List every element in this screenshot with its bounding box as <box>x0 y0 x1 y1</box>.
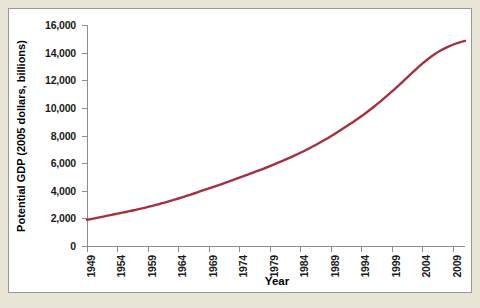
potential-gdp-line <box>87 25 467 247</box>
x-tick <box>331 247 332 252</box>
x-tick <box>178 247 179 252</box>
x-tick-label: 1954 <box>115 255 127 278</box>
y-tick-label: 8,000 <box>51 130 76 142</box>
y-tick-label: 4,000 <box>51 185 76 197</box>
chart-figure: Potential GDP (2005 dollars, billions) Y… <box>8 8 472 293</box>
x-tick-label: 1969 <box>207 255 219 278</box>
x-tick <box>209 247 210 252</box>
y-tick-label: 6,000 <box>51 157 76 169</box>
x-tick-label: 1949 <box>85 255 97 278</box>
x-tick-label: 1989 <box>329 255 341 278</box>
x-tick <box>392 247 393 252</box>
x-tick <box>361 247 362 252</box>
x-tick <box>422 247 423 252</box>
x-tick-label: 1999 <box>390 255 402 278</box>
x-tick-label: 1964 <box>176 255 188 278</box>
x-tick-label: 1984 <box>298 255 310 278</box>
x-tick <box>300 247 301 252</box>
y-tick-label: 14,000 <box>45 47 76 59</box>
y-tick-label: 16,000 <box>45 19 76 31</box>
x-tick-label: 1974 <box>237 255 249 278</box>
plot-area: 02,0004,0006,0008,00010,00012,00014,0001… <box>87 25 467 247</box>
y-tick-label: 2,000 <box>51 212 76 224</box>
x-tick-label: 1994 <box>359 255 371 278</box>
y-tick-label: 0 <box>70 240 76 252</box>
x-tick <box>117 247 118 252</box>
y-axis-title: Potential GDP (2005 dollars, billions) <box>15 25 31 247</box>
x-tick-label: 1979 <box>268 255 280 278</box>
x-tick <box>270 247 271 252</box>
y-tick-label: 12,000 <box>45 74 76 86</box>
x-tick-label: 2009 <box>451 255 463 278</box>
x-tick <box>239 247 240 252</box>
y-tick-label: 10,000 <box>45 102 76 114</box>
x-tick <box>148 247 149 252</box>
x-tick-label: 1959 <box>146 255 158 278</box>
x-tick <box>453 247 454 252</box>
x-tick <box>87 247 88 252</box>
x-tick-label: 2004 <box>420 255 432 278</box>
